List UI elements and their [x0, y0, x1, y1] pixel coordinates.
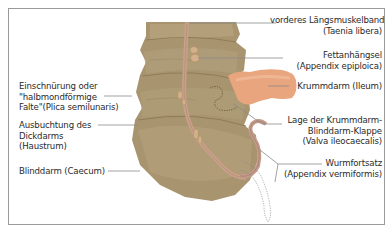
label-valva-ileocaecalis: Lage der Krummdarm- Blinddarm-Klappe (Va… — [270, 115, 382, 147]
label-line: Fettanhängsel — [270, 50, 382, 61]
label-line: Blinddarm (Caecum) — [19, 166, 105, 177]
label-line: (Appendix vermiformis) — [270, 169, 382, 180]
label-line: Wurmfortsatz — [270, 158, 382, 169]
label-line: (Taenia libera) — [270, 26, 382, 37]
label-line: Krummdarm (Ileum) — [270, 81, 382, 92]
label-line: (Appendix epiploica) — [270, 61, 382, 72]
label-line: (Valva ileocaecalis) — [270, 136, 382, 147]
label-ileum: Krummdarm (Ileum) — [270, 81, 382, 92]
label-line: Lage der Krummdarm- — [270, 115, 382, 126]
label-line: vorderes Längsmuskelband — [270, 15, 382, 26]
label-appendix-epiploica: Fettanhängsel (Appendix epiploica) — [270, 50, 382, 71]
label-line: Ausbuchtung des — [19, 120, 91, 131]
label-taenia-libera: vorderes Längsmuskelband (Taenia libera) — [270, 15, 382, 36]
label-line: Falte"(Plica semilunaris) — [19, 102, 119, 113]
label-caecum: Blinddarm (Caecum) — [19, 166, 105, 177]
label-line: Einschnürung oder — [19, 81, 119, 92]
label-line: "halbmondförmige — [19, 92, 119, 103]
label-plica-semilunaris: Einschnürung oder "halbmondförmige Falte… — [19, 81, 119, 113]
label-line: Dickdarms — [19, 131, 91, 142]
label-line: Blinddarm-Klappe — [270, 126, 382, 137]
label-haustrum: Ausbuchtung des Dickdarms (Haustrum) — [19, 120, 91, 152]
label-appendix-vermiformis: Wurmfortsatz (Appendix vermiformis) — [270, 158, 382, 179]
label-line: (Haustrum) — [19, 141, 91, 152]
